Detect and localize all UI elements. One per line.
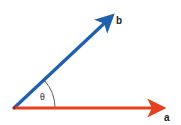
angle-arc	[45, 81, 56, 109]
vector-b-arrow	[14, 18, 110, 108]
vector-angle-diagram: b a θ	[0, 0, 181, 125]
vector-b-label: b	[116, 15, 122, 26]
vector-a-label: a	[164, 112, 170, 123]
origin-point	[12, 106, 15, 109]
angle-theta-label: θ	[40, 91, 45, 102]
